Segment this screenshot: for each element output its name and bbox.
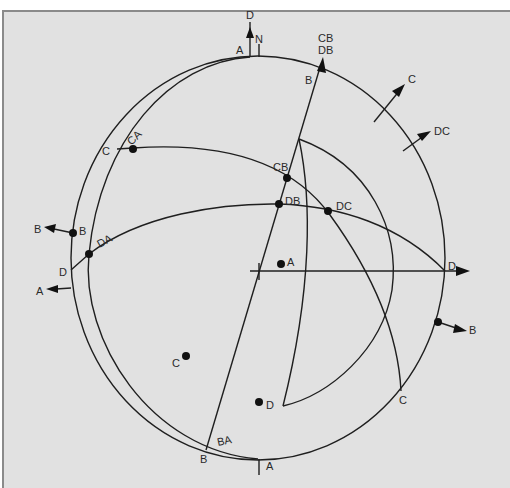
- pole-a: [277, 260, 285, 268]
- label-pole-a: A: [287, 256, 295, 268]
- a-left-arrow-shaft: [56, 288, 71, 289]
- arrow-up-d-icon: [246, 27, 254, 38]
- arrow-b-left-icon: [44, 224, 56, 233]
- crescent-arc-outer: [283, 139, 393, 406]
- arrow-cb-db-icon: [317, 57, 326, 73]
- pole-d: [255, 398, 263, 406]
- label-pole-d: D: [266, 399, 274, 411]
- intersection-dc: [324, 207, 332, 215]
- label-ba: BA: [216, 433, 233, 448]
- label-d-left: D: [59, 266, 67, 278]
- arrow-a-left-icon: [46, 285, 58, 293]
- label-n: N: [255, 33, 263, 45]
- pole-c: [182, 352, 190, 360]
- label-b-bottom: B: [200, 453, 207, 465]
- label-a-bottom: A: [266, 460, 274, 472]
- arrow-b-right-icon: [453, 324, 467, 333]
- label-c-bottom-right: C: [399, 394, 407, 406]
- label-c-left: C: [102, 145, 110, 157]
- label-c-arrow: C: [408, 73, 416, 85]
- intersection-cb: [283, 174, 291, 182]
- label-b-left-arrow: B: [34, 223, 41, 235]
- label-db-top: DB: [318, 44, 333, 56]
- label-pole-c: C: [172, 357, 180, 369]
- label-d-top: D: [246, 9, 254, 21]
- label-dc-arrow: DC: [434, 125, 450, 137]
- label-b-top: B: [305, 74, 312, 86]
- label-b-left: B: [79, 225, 86, 237]
- label-a-left-arrow: A: [36, 285, 44, 297]
- great-circle-b-line: [206, 64, 321, 450]
- label-a-top: A: [236, 44, 244, 56]
- arrow-c-icon: [392, 84, 405, 97]
- arrow-right-d-icon: [456, 266, 470, 276]
- stereonet-diagram: D N A B CB DB C DC C CA B B DA D A CB DB…: [0, 0, 510, 488]
- c-arrow-shaft: [374, 90, 400, 122]
- label-dc: DC: [336, 200, 352, 212]
- label-ca: CA: [125, 127, 145, 147]
- label-cb: CB: [273, 161, 288, 173]
- label-b-right-arrow: B: [469, 324, 476, 336]
- intersection-da: [85, 250, 93, 258]
- intersection-b-left: [69, 229, 77, 237]
- label-cb-top: CB: [318, 32, 333, 44]
- intersection-db: [275, 200, 283, 208]
- intersection-b-right: [434, 318, 442, 326]
- great-circle-a: [88, 57, 258, 459]
- label-db: DB: [285, 195, 300, 207]
- label-d-right: D: [448, 260, 456, 272]
